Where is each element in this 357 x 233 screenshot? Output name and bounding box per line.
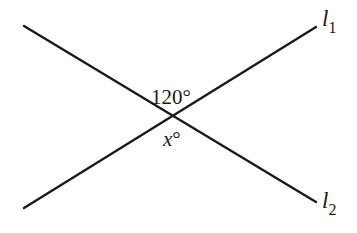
degree-symbol: ° (172, 127, 180, 151)
line-label-l2: l2 (322, 188, 336, 218)
diagram-canvas: 120° x° l1 l2 (0, 0, 357, 233)
line-l2 (24, 26, 316, 202)
line-label-l2-sub: 2 (328, 201, 336, 218)
angle-label-bottom: x° (162, 127, 181, 151)
line-label-l1-sub: 1 (328, 19, 336, 36)
line-label-l1: l1 (322, 6, 336, 36)
angle-label-top: 120° (151, 85, 191, 109)
line-l1 (24, 27, 316, 208)
